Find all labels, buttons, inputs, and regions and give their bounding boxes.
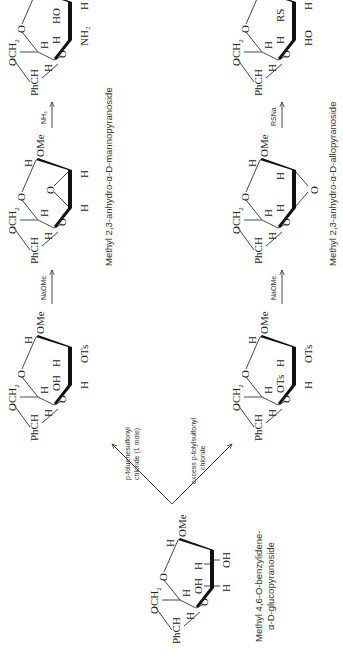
svg-text:O: O bbox=[239, 370, 251, 378]
svg-text:O: O bbox=[280, 395, 292, 403]
svg-text:H: H bbox=[42, 409, 54, 417]
svg-text:H: H bbox=[78, 170, 90, 178]
och2-label: OCH2 bbox=[148, 587, 163, 614]
svg-text:O: O bbox=[239, 193, 251, 201]
svg-text:H: H bbox=[302, 2, 314, 10]
h2-label: H bbox=[192, 562, 204, 570]
reagent-one-mole-line1: p-toluenesulfonyl bbox=[124, 427, 132, 480]
svg-text:PhCH: PhCH bbox=[28, 69, 40, 96]
svg-text:O: O bbox=[15, 370, 27, 378]
svg-text:O: O bbox=[280, 50, 292, 58]
reagent-excess-line1: excess p-tolylsulfonyl bbox=[190, 417, 198, 484]
svg-text:H: H bbox=[246, 336, 258, 344]
reagent-naome-top: NaOMe bbox=[40, 276, 47, 300]
svg-text:OMe: OMe bbox=[258, 134, 270, 157]
h5-label: H bbox=[180, 589, 192, 597]
svg-text:OCH2: OCH2 bbox=[6, 207, 21, 234]
ring-oxygen-label: O bbox=[157, 573, 169, 581]
svg-text:O: O bbox=[239, 25, 251, 33]
svg-text:H: H bbox=[274, 36, 286, 44]
epoxide-oxygen: O bbox=[308, 186, 320, 194]
manno-epoxide-name: Methyl 2,3-anhydro-α-D-mannopyranoside bbox=[103, 87, 114, 266]
c2-substituent: OTs bbox=[78, 345, 90, 363]
svg-text:H: H bbox=[266, 409, 278, 417]
svg-text:PhCH: PhCH bbox=[252, 69, 264, 96]
svg-text:OMe: OMe bbox=[258, 311, 270, 334]
svg-text:PhCH: PhCH bbox=[28, 237, 40, 264]
c3-substituent: NH₂ bbox=[78, 26, 90, 46]
acetal-oxygen-label: O bbox=[198, 598, 210, 606]
c2-substituent: OH bbox=[220, 552, 232, 568]
c1-substituent: OMe bbox=[176, 514, 188, 537]
svg-text:H: H bbox=[78, 204, 90, 212]
thio-product: PhCH OCH2 O O H H H H RS HO H OMe bbox=[230, 0, 314, 96]
svg-text:PhCH: PhCH bbox=[28, 414, 40, 441]
svg-text:H: H bbox=[38, 386, 50, 394]
svg-text:O: O bbox=[56, 218, 68, 226]
arrow-one-mole bbox=[112, 444, 172, 504]
svg-text:O: O bbox=[56, 395, 68, 403]
svg-text:H: H bbox=[262, 209, 274, 217]
branch-arrows: p-toluenesulfonyl chloride (1 mole) exce… bbox=[112, 417, 232, 504]
svg-text:O: O bbox=[56, 50, 68, 58]
svg-text:H: H bbox=[274, 359, 286, 367]
svg-text:PhCH: PhCH bbox=[252, 237, 264, 264]
svg-text:OCH2: OCH2 bbox=[230, 39, 245, 66]
c3-substituent: OTs bbox=[274, 375, 286, 393]
svg-text:H: H bbox=[50, 359, 62, 367]
svg-text:H: H bbox=[38, 209, 50, 217]
monotosylate: PhCH OCH2 O O H H H H OH OTs H OMe bbox=[6, 311, 90, 441]
c2-substituent: HO bbox=[50, 8, 62, 24]
svg-text:H: H bbox=[78, 2, 90, 10]
starting-material-name-line2: α-D-glucopyranoside bbox=[265, 542, 276, 630]
reagent-one-mole-line2: chloride (1 mole) bbox=[133, 428, 141, 480]
svg-text:H: H bbox=[302, 381, 314, 389]
svg-text:O: O bbox=[15, 193, 27, 201]
svg-text:H: H bbox=[50, 36, 62, 44]
h4-label: H bbox=[184, 612, 196, 620]
c3-substituent: OH bbox=[50, 375, 62, 391]
h3-label: H bbox=[220, 584, 232, 592]
svg-text:OCH2: OCH2 bbox=[6, 39, 21, 66]
svg-text:H: H bbox=[38, 41, 50, 49]
svg-text:H: H bbox=[22, 336, 34, 344]
phch-label: PhCH bbox=[170, 617, 182, 644]
svg-text:OMe: OMe bbox=[34, 311, 46, 334]
reagent-excess-line2: chloride bbox=[199, 445, 206, 470]
svg-text:H: H bbox=[42, 64, 54, 72]
svg-text:H: H bbox=[42, 232, 54, 240]
c3-substituent: OH bbox=[192, 578, 204, 594]
c3-substituent: HO bbox=[302, 30, 314, 46]
manno-epoxide: PhCH OCH2 O O H H H O H H OMe Methyl 2,3… bbox=[6, 87, 114, 266]
svg-text:H: H bbox=[266, 64, 278, 72]
starting-material-name-line1: Methyl 4,6-O-benzylidene- bbox=[253, 531, 264, 642]
reaction-scheme-canvas: PhCH OCH2 O O H H H H OH OH H OMe Methyl… bbox=[0, 0, 343, 656]
c2-substituent: OTs bbox=[302, 345, 314, 363]
svg-text:O: O bbox=[15, 25, 27, 33]
reagent-nh3: NH₃ bbox=[40, 111, 47, 124]
svg-text:H: H bbox=[262, 41, 274, 49]
reaction-scheme: PhCH OCH2 O O H H H H OH OH H OMe Methyl… bbox=[0, 0, 343, 656]
amino-product: PhCH OCH2 O O H H H H HO NH₂ H OMe bbox=[6, 0, 90, 96]
svg-text:O: O bbox=[280, 218, 292, 226]
allo-epoxide: PhCH OCH2 O O H H H H H O OMe Methyl 2,3… bbox=[230, 102, 338, 266]
svg-text:H: H bbox=[266, 232, 278, 240]
allo-epoxide-name: Methyl 2,3-anhydro-α-D-allopyranoside bbox=[327, 102, 338, 266]
reagent-naome-bottom: NaOMe bbox=[270, 276, 277, 300]
svg-text:H: H bbox=[78, 381, 90, 389]
svg-text:H: H bbox=[246, 159, 258, 167]
reagent-rsna: RSNa bbox=[270, 107, 277, 126]
svg-text:OMe: OMe bbox=[34, 134, 46, 157]
svg-text:H: H bbox=[274, 204, 286, 212]
ditosylate: PhCH OCH2 O O H H H H OTs OTs H OMe bbox=[230, 311, 314, 441]
starting-material: PhCH OCH2 O O H H H H OH OH H OMe Methyl… bbox=[148, 514, 276, 644]
svg-text:OCH2: OCH2 bbox=[230, 384, 245, 411]
svg-text:H: H bbox=[262, 386, 274, 394]
svg-text:PhCH: PhCH bbox=[252, 414, 264, 441]
h1-label: H bbox=[164, 539, 176, 547]
svg-text:OCH2: OCH2 bbox=[230, 207, 245, 234]
epoxide-oxygen: O bbox=[44, 186, 56, 194]
svg-text:H: H bbox=[274, 172, 286, 180]
svg-text:OCH2: OCH2 bbox=[6, 384, 21, 411]
c2-substituent: RS bbox=[274, 9, 286, 22]
